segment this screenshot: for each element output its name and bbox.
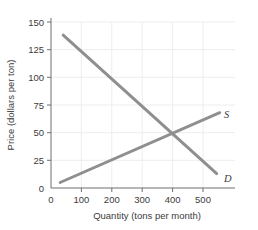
x-axis-title: Quantity (tons per month) <box>93 210 201 221</box>
y-tick-label-75: 75 <box>33 100 44 111</box>
x-tick-label-500: 500 <box>195 194 211 205</box>
y-tick-label-100: 100 <box>28 72 44 83</box>
y-tick-marks <box>47 22 51 160</box>
x-tick-label-200: 200 <box>104 194 120 205</box>
demand-curve-label: D <box>223 173 232 184</box>
y-tick-label-25: 25 <box>33 155 44 166</box>
demand-curve <box>63 35 217 173</box>
x-tick-label-100: 100 <box>73 194 89 205</box>
x-tick-label-0: 0 <box>48 194 53 205</box>
supply-curve-label: S <box>224 109 230 120</box>
y-tick-label-0: 0 <box>39 183 44 194</box>
chart-canvas: 150 125 100 75 50 25 0 0 100 200 300 400… <box>0 0 258 230</box>
x-tick-label-400: 400 <box>165 194 181 205</box>
y-tick-label-50: 50 <box>33 127 44 138</box>
y-tick-label-150: 150 <box>28 17 44 28</box>
y-axis-title: Price (dollars per ton) <box>5 60 16 151</box>
x-tick-marks <box>81 188 203 192</box>
axes <box>51 18 235 188</box>
x-tick-label-300: 300 <box>134 194 150 205</box>
supply-demand-chart: 150 125 100 75 50 25 0 0 100 200 300 400… <box>0 0 258 230</box>
y-tick-labels: 150 125 100 75 50 25 0 <box>28 17 44 194</box>
x-tick-labels: 0 100 200 300 400 500 <box>48 194 211 205</box>
curve-labels: S D <box>223 109 232 184</box>
gridlines <box>51 22 235 188</box>
y-tick-label-125: 125 <box>28 44 44 55</box>
supply-curve <box>60 113 220 183</box>
